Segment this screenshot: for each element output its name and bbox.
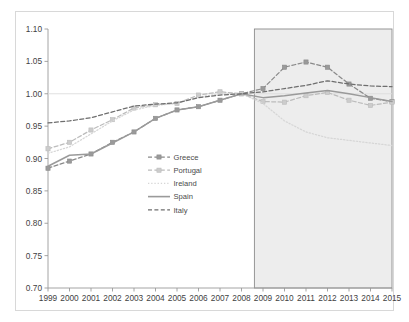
x-tick-label: 2011	[297, 293, 315, 303]
x-tick-label: 2013	[340, 293, 359, 303]
legend-marker-portugal	[157, 168, 161, 172]
series-marker-portugal	[46, 147, 50, 151]
series-marker-greece	[67, 159, 71, 163]
y-tick-label: 1.10	[26, 24, 43, 34]
series-marker-greece	[261, 86, 265, 90]
x-tick-label: 2009	[254, 293, 273, 303]
series-marker-portugal	[67, 140, 71, 144]
y-tick-label: 0.75	[26, 251, 43, 261]
x-tick-label: 2000	[60, 293, 79, 303]
shaded-forecast-region	[254, 29, 392, 288]
x-tick-label: 2001	[82, 293, 101, 303]
y-tick-label: 0.85	[26, 186, 43, 196]
line-chart: 0.700.750.800.850.900.951.001.051.101999…	[0, 0, 409, 322]
legend-label-spain: Spain	[174, 192, 193, 201]
y-tick-label: 0.80	[26, 218, 43, 228]
legend-item-portugal[interactable]: Portugal	[148, 166, 202, 175]
x-tick-label: 2006	[189, 293, 208, 303]
x-tick-label: 2010	[275, 293, 294, 303]
legend-item-greece[interactable]: Greece	[148, 153, 198, 162]
series-marker-portugal	[89, 128, 93, 132]
legend-item-italy[interactable]: Italy	[148, 206, 188, 215]
y-tick-label: 0.95	[26, 121, 43, 131]
x-tick-label: 2004	[146, 293, 165, 303]
series-marker-portugal	[153, 103, 157, 107]
series-marker-portugal	[282, 100, 286, 104]
x-tick-label: 2014	[361, 293, 380, 303]
series-marker-portugal	[304, 94, 308, 98]
plot-area: 0.700.750.800.850.900.951.001.051.101999…	[0, 0, 409, 322]
legend-label-italy: Italy	[174, 206, 188, 215]
chart-figure: 0.700.750.800.850.900.951.001.051.101999…	[0, 0, 409, 322]
series-marker-portugal	[368, 103, 372, 107]
legend-item-spain[interactable]: Spain	[148, 192, 193, 201]
series-marker-greece	[325, 65, 329, 69]
y-tick-label: 0.90	[26, 154, 43, 164]
x-tick-label: 2015	[383, 293, 402, 303]
legend-marker-greece	[157, 155, 161, 159]
x-tick-label: 2002	[103, 293, 122, 303]
x-tick-label: 2003	[125, 293, 144, 303]
x-tick-label: 2012	[318, 293, 337, 303]
legend-label-greece: Greece	[174, 153, 199, 162]
series-marker-greece	[304, 60, 308, 64]
legend-label-ireland: Ireland	[174, 179, 197, 188]
series-marker-greece	[282, 65, 286, 69]
y-tick-label: 1.05	[26, 56, 43, 66]
x-tick-label: 2008	[232, 293, 251, 303]
series-marker-portugal	[347, 98, 351, 102]
x-tick-label: 2007	[211, 293, 230, 303]
x-tick-label: 1999	[39, 293, 58, 303]
y-tick-label: 0.70	[26, 283, 43, 293]
x-tick-label: 2005	[168, 293, 187, 303]
legend-label-portugal: Portugal	[174, 166, 203, 175]
y-tick-label: 1.00	[26, 89, 43, 99]
legend-item-ireland[interactable]: Ireland	[148, 179, 197, 188]
